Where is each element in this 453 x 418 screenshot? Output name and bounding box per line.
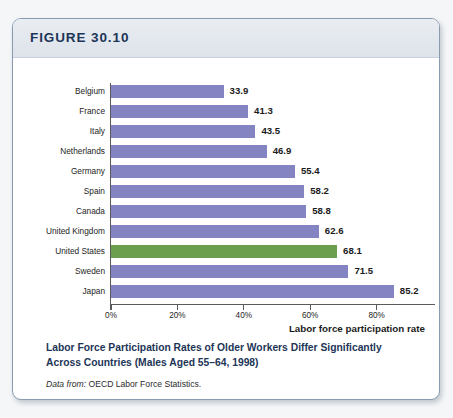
x-axis-title: Labor force participation rate	[289, 323, 425, 334]
bar	[111, 145, 267, 158]
category-label: Belgium	[13, 86, 105, 96]
bar	[111, 245, 337, 258]
y-axis-line	[110, 83, 111, 305]
bar	[111, 225, 319, 238]
bar-chart-plot: Belgium33.9France41.3Italy43.5Netherland…	[13, 57, 440, 307]
x-tick-mark	[310, 305, 311, 310]
bar-value-label: 41.3	[254, 105, 273, 116]
source-prefix: Data from:	[46, 379, 86, 389]
bar-value-label: 55.4	[301, 165, 320, 176]
caption-block: Labor Force Participation Rates of Older…	[46, 341, 419, 389]
category-label: Japan	[13, 286, 105, 296]
category-label: Canada	[13, 206, 105, 216]
figure-card: FIGURE 30.10 Belgium33.9France41.3Italy4…	[12, 18, 440, 400]
source-text: OECD Labor Force Statistics.	[89, 379, 202, 389]
x-tick-label: 0%	[105, 311, 117, 320]
bar-row: Italy43.5	[13, 123, 440, 143]
figure-header-band: FIGURE 30.10	[13, 19, 439, 58]
category-label: Spain	[13, 186, 105, 196]
x-tick-mark	[177, 305, 178, 310]
bar-value-label: 58.2	[310, 185, 329, 196]
bar	[111, 205, 306, 218]
bar-value-label: 62.6	[325, 225, 344, 236]
category-label: Netherlands	[13, 146, 105, 156]
x-tick-label: 60%	[302, 311, 318, 320]
bar-value-label: 68.1	[343, 245, 362, 256]
category-label: United States	[13, 246, 105, 256]
category-label: Sweden	[13, 266, 105, 276]
category-label: Italy	[13, 126, 105, 136]
bar-row: Germany55.4	[13, 163, 440, 183]
bar-row: France41.3	[13, 103, 440, 123]
x-tick-label: 20%	[169, 311, 185, 320]
bar-value-label: 58.8	[312, 205, 331, 216]
bar-row: Sweden71.5	[13, 263, 440, 283]
caption-title: Labor Force Participation Rates of Older…	[46, 341, 419, 370]
caption-source: Data from: OECD Labor Force Statistics.	[46, 379, 419, 389]
category-label: United Kingdom	[13, 226, 105, 236]
bar-value-label: 43.5	[261, 125, 280, 136]
bar-row: Netherlands46.9	[13, 143, 440, 163]
bar-value-label: 46.9	[273, 145, 292, 156]
bar	[111, 85, 224, 98]
x-tick-label: 40%	[236, 311, 252, 320]
bar-row: Japan85.2	[13, 283, 440, 303]
category-label: Germany	[13, 166, 105, 176]
x-axis-line	[110, 304, 435, 305]
bar-row: Spain58.2	[13, 183, 440, 203]
x-tick-mark	[243, 305, 244, 310]
bar-value-label: 71.5	[354, 265, 373, 276]
bar	[111, 165, 295, 178]
bar	[111, 265, 348, 278]
x-tick-label: 80%	[368, 311, 384, 320]
bar	[111, 125, 255, 138]
bar	[111, 185, 304, 198]
bar-row: Belgium33.9	[13, 83, 440, 103]
bar	[111, 105, 248, 118]
x-tick-mark	[110, 305, 111, 310]
bar	[111, 285, 394, 298]
bar-row: United Kingdom62.6	[13, 223, 440, 243]
bar-row: Canada58.8	[13, 203, 440, 223]
figure-number-label: FIGURE 30.10	[30, 30, 129, 45]
x-tick-mark	[376, 305, 377, 310]
bar-value-label: 85.2	[400, 285, 419, 296]
bar-value-label: 33.9	[230, 85, 249, 96]
bar-row: United States68.1	[13, 243, 440, 263]
category-label: France	[13, 106, 105, 116]
